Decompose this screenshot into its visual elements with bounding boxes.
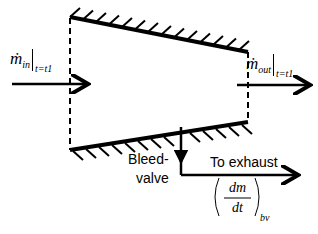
bleed-rate-numerator: dm — [224, 180, 251, 196]
evaluation-bar — [32, 49, 33, 71]
control-volume-diagram: ṁint=t1 ṁoutt=t1 Bleed- valve To exhaust… — [0, 0, 318, 234]
top-wall — [70, 8, 249, 52]
outlet-eval-condition: t=t1 — [276, 68, 293, 79]
outlet-mass-flow-label: ṁoutt=t1 — [246, 54, 293, 76]
bleed-rate-denominator: dt — [224, 200, 251, 216]
inlet-eval-condition: t=t1 — [35, 63, 52, 74]
outlet-subscript: out — [258, 64, 271, 75]
bleed-label-line2: valve — [128, 169, 169, 188]
diagram-graphics — [0, 0, 318, 234]
bleed-label-line1: Bleed- — [128, 150, 169, 169]
inlet-subscript: in — [22, 59, 30, 70]
exhaust-label: To exhaust — [210, 154, 278, 170]
bleed-valve-label: Bleed- valve — [128, 150, 169, 188]
evaluation-bar — [273, 54, 274, 76]
mdot-symbol: ṁ — [246, 54, 258, 73]
mdot-symbol: ṁ — [10, 49, 22, 68]
inlet-mass-flow-label: ṁint=t1 — [10, 49, 52, 71]
bleed-rate-subscript: bv — [260, 212, 269, 223]
